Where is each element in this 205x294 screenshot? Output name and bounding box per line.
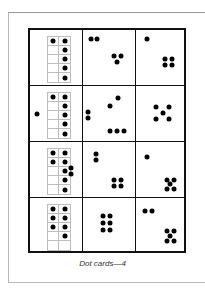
ten-frame-square	[59, 205, 70, 214]
dot-icon	[62, 48, 67, 53]
ten-frame-square	[48, 93, 59, 102]
ten-frame-square	[59, 232, 70, 241]
ten-frame-square	[59, 46, 70, 55]
dot-icon	[62, 169, 67, 174]
ten-frame-square	[48, 214, 59, 223]
dot-icon	[167, 117, 172, 122]
ten-frame-square	[48, 55, 59, 64]
dot-icon	[62, 66, 67, 71]
dot-icon	[51, 95, 56, 100]
dot-icon	[108, 104, 113, 109]
dot-icon	[62, 39, 67, 44]
ten-frame-square	[59, 55, 70, 64]
dot-icon	[101, 221, 106, 226]
ten-frame-square	[59, 111, 70, 120]
dot-icon	[62, 57, 67, 62]
dot-icon	[112, 184, 117, 189]
dot-card-r1-c1	[30, 30, 83, 86]
dot-icon	[170, 63, 175, 68]
dot-icon	[101, 228, 106, 233]
dot-icon	[62, 122, 67, 127]
ten-frame-square	[59, 102, 70, 111]
dot-icon	[62, 151, 67, 156]
dot-icon	[168, 182, 173, 187]
dot-icon	[119, 178, 124, 183]
dot-icon	[116, 96, 121, 101]
dot-icon	[86, 110, 91, 115]
dot-icon	[51, 225, 56, 230]
dot-icon	[154, 105, 159, 110]
dot-icon	[69, 166, 74, 171]
dot-card-r2-c2	[83, 86, 136, 142]
dot-icon	[154, 117, 159, 122]
dot-icon	[122, 129, 127, 134]
ten-frame-square	[59, 73, 70, 82]
dot-card-r1-c3	[136, 30, 184, 86]
ten-frame-square	[48, 149, 59, 158]
ten-frame-square	[59, 185, 70, 194]
dot-icon	[62, 104, 67, 109]
dot-icon	[51, 39, 56, 44]
dot-icon	[51, 160, 56, 165]
dot-icon	[51, 216, 56, 221]
ten-frame	[47, 92, 71, 139]
ten-frame	[47, 148, 71, 195]
dot-icon	[167, 105, 172, 110]
dot-icon	[165, 239, 170, 244]
dot-icon	[94, 152, 99, 157]
dot-icon	[62, 187, 67, 192]
ten-frame-square	[48, 46, 59, 55]
ten-frame-square	[48, 102, 59, 111]
dot-icon	[108, 214, 113, 219]
ten-frame-square	[48, 167, 59, 176]
ten-frame-square	[59, 93, 70, 102]
dot-icon	[163, 57, 168, 62]
ten-frame-square	[48, 223, 59, 232]
dot-icon	[62, 178, 67, 183]
dot-icon	[172, 239, 177, 244]
dot-card-r3-c2	[83, 142, 136, 198]
dot-cards-grid	[28, 28, 186, 253]
dot-icon	[172, 178, 177, 183]
ten-frame-square	[59, 223, 70, 232]
ten-frame-square	[48, 120, 59, 129]
dot-icon	[35, 112, 40, 117]
dot-icon	[168, 234, 173, 239]
dot-icon	[62, 95, 67, 100]
dot-icon	[115, 129, 120, 134]
dot-icon	[62, 75, 67, 80]
dot-icon	[86, 116, 91, 121]
ten-frame-square	[48, 73, 59, 82]
ten-frame-square	[48, 158, 59, 167]
dot-icon	[161, 111, 166, 116]
dot-icon	[94, 158, 99, 163]
ten-frame-square	[48, 205, 59, 214]
ten-frame	[47, 36, 71, 83]
dot-icon	[51, 207, 56, 212]
ten-frame-square	[48, 111, 59, 120]
ten-frame-square	[59, 149, 70, 158]
dot-card-r3-c1	[30, 142, 83, 198]
dot-icon	[119, 184, 124, 189]
ten-frame-square	[48, 241, 59, 250]
dot-icon	[62, 225, 67, 230]
ten-frame-square	[59, 37, 70, 46]
dot-icon	[108, 221, 113, 226]
dot-icon	[112, 178, 117, 183]
ten-frame-square	[59, 129, 70, 138]
ten-frame-square	[48, 129, 59, 138]
dot-icon	[145, 155, 150, 160]
dot-card-r4-c1	[30, 198, 83, 251]
dot-icon	[62, 113, 67, 118]
ten-frame-square	[48, 37, 59, 46]
dot-icon	[119, 54, 124, 59]
dot-card-r4-c3	[136, 198, 184, 251]
dot-icon	[62, 234, 67, 239]
dot-icon	[143, 209, 148, 214]
dot-card-r2-c3	[136, 86, 184, 142]
dot-card-r3-c3	[136, 142, 184, 198]
ten-frame-square	[48, 64, 59, 73]
dot-icon	[108, 228, 113, 233]
ten-frame-square	[59, 176, 70, 185]
dot-icon	[62, 160, 67, 165]
